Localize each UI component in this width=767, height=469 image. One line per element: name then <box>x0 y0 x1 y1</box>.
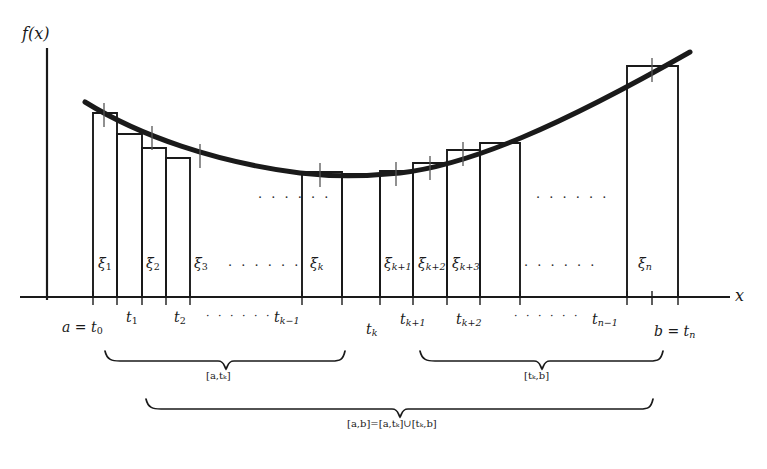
brace-tk-b <box>420 351 663 369</box>
t-label-k-minus-1: tk−1 <box>274 310 299 326</box>
t-label-1: t1 <box>126 310 138 326</box>
xi-label-k-plus-3: ξk+3 <box>452 256 480 272</box>
xi-label-k: ξk <box>310 256 324 272</box>
sample-point-ticks <box>104 58 652 187</box>
rect-9 <box>447 150 480 297</box>
riemann-sum-figure: f(x) x ξ1 ξ2 ξ3 ξk ξk+1 ξk+2 ξk+3 ξn a =… <box>0 0 767 469</box>
xi-label-2: ξ2 <box>146 256 160 272</box>
rect-8 <box>413 163 447 297</box>
t-label-k-plus-2: tk+2 <box>456 312 481 328</box>
rect-2 <box>117 134 142 297</box>
ellipsis-xi-right: · · · · · · <box>524 258 597 273</box>
xi-label-k-plus-1: ξk+1 <box>384 256 412 272</box>
t-label-2: t2 <box>174 310 186 326</box>
xi-label-3: ξ3 <box>194 256 208 272</box>
brace-label-a-b: [a,b]=[a,tₖ]∪[tₖ,b] <box>347 419 437 429</box>
rect-11 <box>627 66 678 297</box>
t-label-n-minus-1: tn−1 <box>592 312 618 328</box>
rect-3 <box>142 148 166 297</box>
brace-a-tk <box>105 351 345 369</box>
brace-label-tk-b: [tₖ,b] <box>524 371 549 381</box>
braces <box>105 351 663 417</box>
ellipsis-t-left: · · · · · · <box>206 310 272 323</box>
ellipsis-t-right: · · · · · · <box>514 310 580 323</box>
y-axis-label: f(x) <box>22 26 49 42</box>
t-label-n: b = tn <box>654 324 695 340</box>
xi-label-n: ξn <box>638 256 652 272</box>
brace-a-b <box>146 399 653 417</box>
rect-4 <box>166 158 190 297</box>
x-axis-label: x <box>735 288 744 304</box>
t-label-k-plus-1: tk+1 <box>400 312 425 328</box>
figure-canvas <box>0 0 767 469</box>
rect-10 <box>480 143 520 297</box>
ellipsis-plot-right: · · · · · · <box>536 190 609 205</box>
rect-7 <box>380 171 413 297</box>
rect-6 <box>342 174 380 297</box>
brace-label-a-tk: [a,tₖ] <box>206 371 231 381</box>
xi-label-1: ξ1 <box>98 256 112 272</box>
xi-label-k-plus-2: ξk+2 <box>418 256 446 272</box>
ellipsis-plot-left: · · · · · · <box>258 190 331 205</box>
ellipsis-xi-left: · · · · · · <box>228 258 301 273</box>
t-label-0: a = t0 <box>62 320 103 336</box>
t-label-k: tk <box>366 322 377 338</box>
